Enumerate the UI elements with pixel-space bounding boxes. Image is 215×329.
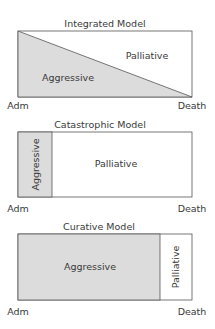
palliative-label: Palliative: [170, 246, 181, 289]
axis-start-label: Adm: [7, 203, 29, 214]
axis-end-label: Death: [178, 203, 207, 214]
aggressive-label: Aggressive: [64, 261, 116, 272]
panel-title: Curative Model: [63, 221, 135, 232]
aggressive-label: Aggressive: [30, 138, 41, 190]
palliative-label: Palliative: [95, 158, 138, 169]
aggressive-label: Aggressive: [42, 72, 94, 83]
care-models-diagram: Integrated Model Aggressive Palliative A…: [0, 0, 215, 329]
axis-end-label: Death: [178, 100, 207, 111]
palliative-label: Palliative: [126, 50, 169, 61]
panel-title: Integrated Model: [64, 18, 145, 29]
axis-start-label: Adm: [7, 100, 29, 111]
curative-model-panel: Curative Model Aggressive Palliative Adm…: [7, 221, 206, 317]
catastrophic-model-panel: Catastrophic Model Aggressive Palliative…: [7, 119, 206, 214]
panel-title: Catastrophic Model: [54, 119, 146, 130]
axis-start-label: Adm: [7, 306, 29, 317]
integrated-model-panel: Integrated Model Aggressive Palliative A…: [7, 18, 206, 111]
axis-end-label: Death: [178, 306, 207, 317]
